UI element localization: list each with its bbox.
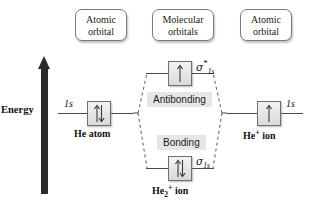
caption-atomic-orbital-right: Atomic orbital xyxy=(240,9,292,41)
caption-right-line2: orbital xyxy=(241,26,291,38)
orbital-box-he-atom xyxy=(87,101,111,126)
arrow-shaft xyxy=(41,67,48,194)
level-line-he-plus-left xyxy=(227,113,257,114)
electron-spin-pair-icon xyxy=(88,102,110,125)
sigma-subscript: 1s xyxy=(203,161,210,170)
caption-atomic-orbital-left: Atomic orbital xyxy=(75,9,127,41)
species-label-he-plus-ion: He+ ion xyxy=(243,128,276,141)
electron-spin-up-icon xyxy=(258,102,280,125)
mo-label-sigma-star-1s: σ*1s xyxy=(196,58,214,76)
species-label-he2-plus-ion: He2+ ion xyxy=(152,183,188,199)
region-label-antibonding: Antibonding xyxy=(147,92,212,107)
electron-spin-up-icon xyxy=(169,62,191,85)
orbital-label-1s-right: 1s xyxy=(286,98,295,109)
caption-left-line1: Atomic xyxy=(76,14,126,26)
mo-label-sigma-1s: σ1s xyxy=(196,155,210,170)
caption-left-line2: orbital xyxy=(76,26,126,38)
caption-right-line1: Atomic xyxy=(241,14,291,26)
sigma-star-subscript: 1s xyxy=(208,67,215,76)
level-line-he-atom-right xyxy=(111,113,133,114)
orbital-box-antibonding xyxy=(168,61,192,86)
energy-axis-label: Energy xyxy=(1,104,39,115)
mo-energy-diagram: Atomic orbital Molecular orbitals Atomic… xyxy=(0,0,316,203)
orbital-box-he-plus-ion xyxy=(257,101,281,126)
he2-base: He xyxy=(152,185,164,196)
orbital-box-bonding xyxy=(168,156,192,181)
level-line-antibonding-left xyxy=(146,73,168,74)
energy-axis-arrow-icon xyxy=(40,56,49,194)
caption-mid-line2: orbitals xyxy=(153,26,213,38)
caption-molecular-orbitals: Molecular orbitals xyxy=(152,9,214,41)
electron-spin-pair-icon xyxy=(169,157,191,180)
level-line-he-plus-right xyxy=(281,113,303,114)
he-plus-base: He xyxy=(243,130,255,141)
orbital-label-1s-left: 1s xyxy=(64,98,73,109)
level-line-bonding-left xyxy=(146,168,168,169)
he-plus-tail: ion xyxy=(260,130,276,141)
he2-tail: ion xyxy=(173,185,189,196)
species-label-he-atom: He atom xyxy=(74,128,110,139)
region-label-bonding: Bonding xyxy=(157,135,206,150)
level-line-he-atom-left xyxy=(58,113,87,114)
caption-mid-line1: Molecular xyxy=(153,14,213,26)
